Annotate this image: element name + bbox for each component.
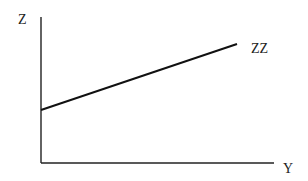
y-axis-label: Y [283, 161, 293, 176]
diagram-canvas: Z Y ZZ [0, 0, 308, 181]
z-axis-label: Z [18, 12, 27, 27]
zz-line [41, 44, 237, 110]
zz-line-label: ZZ [251, 41, 268, 56]
